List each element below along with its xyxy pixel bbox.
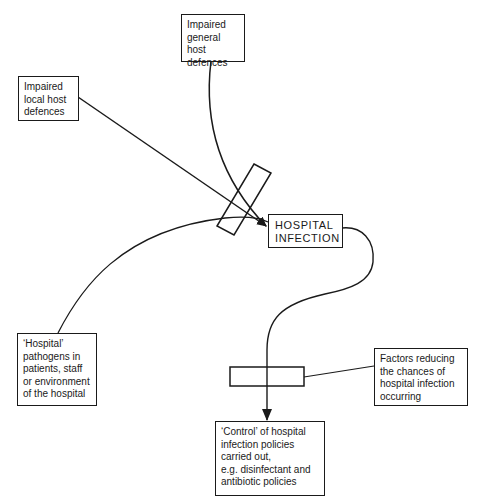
- edge-local-to-infection: [78, 97, 266, 226]
- edge-pathogens-to-infection: [58, 217, 268, 333]
- edge-general-to-infection: [209, 61, 266, 226]
- node-control-policies: ‘Control’ of hospital infection policies…: [215, 421, 325, 496]
- node-impaired-local-host-defences: Impaired local host defences: [18, 76, 79, 121]
- node-impaired-general-host-defences: Impaired general host defences: [181, 14, 245, 62]
- node-factors-reducing-infection: Factors reducing the chances of hospital…: [374, 348, 468, 406]
- node-hospital-pathogens: ‘Hospital’ pathogens in patients, staff …: [17, 333, 97, 406]
- node-hospital-infection: HOSPITAL INFECTION: [268, 214, 343, 248]
- edge-factors-to-barrier: [304, 366, 374, 377]
- edge-infection-to-control: [267, 228, 373, 420]
